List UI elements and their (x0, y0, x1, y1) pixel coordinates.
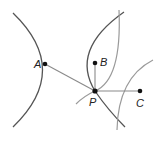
left-curve (13, 13, 43, 127)
label-A: A (33, 58, 41, 70)
diagram-canvas: A B C P (0, 0, 157, 143)
point-C (138, 89, 143, 94)
right-curve (117, 60, 153, 130)
label-C: C (136, 97, 144, 109)
point-B (93, 61, 98, 66)
point-P (92, 88, 97, 93)
label-B: B (100, 56, 107, 68)
label-P: P (89, 96, 97, 108)
gray-curve (76, 10, 119, 104)
point-A (43, 62, 48, 67)
